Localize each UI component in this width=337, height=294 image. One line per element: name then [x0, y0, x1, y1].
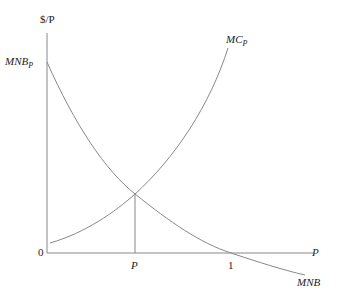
mnb-p-sub: P: [28, 61, 33, 70]
diagram-canvas: [0, 0, 337, 294]
p-tick-label: P: [131, 259, 138, 271]
mc-curve: [50, 48, 228, 243]
y-axis-label: $/P: [40, 13, 55, 25]
one-tick-label: 1: [228, 259, 234, 271]
mnb-p-label: MNBP: [5, 55, 33, 70]
mc-main: MC: [226, 33, 243, 45]
mnb-label: MNB: [297, 276, 320, 288]
mc-sub: P: [243, 39, 248, 48]
mnb-p-main: MNB: [5, 55, 28, 67]
mc-p-label: MCP: [226, 33, 247, 48]
x-axis-label: P: [312, 246, 319, 258]
origin-label: 0: [38, 246, 44, 258]
mnb-curve: [47, 62, 305, 275]
